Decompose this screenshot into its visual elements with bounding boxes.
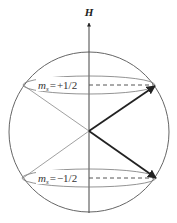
- svg-text:ms=−1/2: ms=−1/2: [38, 172, 77, 186]
- spin-precession-diagram: H ms=+1/2 ms=−1/2: [0, 0, 177, 223]
- spin-up-label: ms=+1/2: [36, 77, 86, 93]
- svg-text:ms=+1/2: ms=+1/2: [38, 79, 77, 93]
- upper-cone-left-line: [23, 85, 89, 131]
- field-axis-label: H: [84, 6, 94, 18]
- spin-down-vector: [89, 131, 156, 178]
- spin-down-label: ms=−1/2: [36, 170, 86, 186]
